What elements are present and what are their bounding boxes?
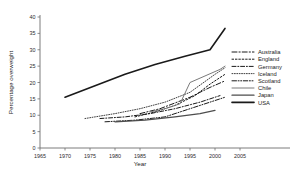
y-tick-label: 10 bbox=[30, 112, 36, 118]
y-tick-label: 20 bbox=[30, 80, 36, 86]
x-tick-label: 1975 bbox=[84, 153, 96, 159]
x-axis-title: Year bbox=[134, 160, 147, 167]
y-tick-label: 40 bbox=[30, 14, 36, 20]
legend-label-usa: USA bbox=[258, 100, 270, 106]
legend-label-germany: Germany bbox=[258, 64, 282, 70]
x-tick-label: 1965 bbox=[34, 153, 46, 159]
legend-label-australia: Australia bbox=[258, 49, 281, 55]
overweight-line-chart: 0510152025303540196519701975198019851990… bbox=[0, 0, 302, 180]
y-tick-label: 5 bbox=[33, 129, 36, 135]
legend-label-scotland: Scotland bbox=[258, 78, 281, 84]
x-tick-label: 1995 bbox=[184, 153, 196, 159]
x-tick-label: 2005 bbox=[234, 153, 246, 159]
y-tick-label: 15 bbox=[30, 96, 36, 102]
x-tick-label: 1970 bbox=[59, 153, 71, 159]
chart-figure: 0510152025303540196519701975198019851990… bbox=[0, 0, 302, 180]
y-tick-label: 35 bbox=[30, 30, 36, 36]
x-tick-label: 1985 bbox=[134, 153, 146, 159]
x-tick-label: 1990 bbox=[159, 153, 171, 159]
y-axis-title: Percentage overweight bbox=[7, 51, 14, 115]
x-tick-label: 2000 bbox=[209, 153, 221, 159]
x-tick-label: 1980 bbox=[109, 153, 121, 159]
legend-label-chile: Chile bbox=[258, 85, 271, 91]
series-line-australia bbox=[140, 81, 225, 114]
legend-label-england: England bbox=[258, 56, 279, 62]
series-line-germany bbox=[100, 96, 220, 119]
legend-label-japan: Japan bbox=[258, 92, 274, 98]
y-tick-label: 30 bbox=[30, 47, 36, 53]
y-tick-label: 25 bbox=[30, 63, 36, 69]
y-tick-label: 0 bbox=[33, 145, 36, 151]
legend-label-iceland: Iceland bbox=[258, 71, 277, 77]
series-line-usa bbox=[65, 28, 225, 97]
